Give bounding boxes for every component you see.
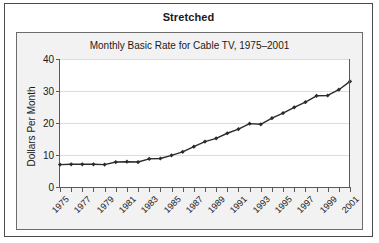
x-tick-label: 1993 bbox=[251, 194, 272, 215]
figure-caption: Stretched bbox=[5, 4, 372, 30]
y-axis-title: Dollars Per Month bbox=[26, 67, 37, 187]
series-polyline bbox=[60, 81, 350, 164]
x-tick-label: 1977 bbox=[72, 194, 93, 215]
data-point-marker bbox=[125, 160, 129, 164]
x-tick-mark bbox=[60, 187, 61, 192]
plot-right-edge bbox=[349, 59, 350, 188]
x-tick-mark bbox=[250, 187, 251, 192]
x-tick-label: 1997 bbox=[295, 194, 316, 215]
x-tick-mark bbox=[183, 187, 184, 192]
data-point-marker bbox=[80, 162, 84, 166]
x-tick-label: 1999 bbox=[318, 194, 339, 215]
data-series-line bbox=[60, 59, 350, 187]
data-point-marker bbox=[91, 162, 95, 166]
data-point-marker bbox=[169, 153, 173, 157]
data-point-marker bbox=[192, 145, 196, 149]
y-tick-label: 30 bbox=[43, 86, 54, 97]
x-tick-mark bbox=[116, 187, 117, 192]
figure-frame: Stretched Monthly Basic Rate for Cable T… bbox=[4, 3, 373, 237]
x-tick-label: 1985 bbox=[161, 194, 182, 215]
chart-panel: Monthly Basic Rate for Cable TV, 1975–20… bbox=[16, 32, 363, 230]
x-tick-mark bbox=[160, 187, 161, 192]
data-point-marker bbox=[114, 160, 118, 164]
x-tick-label: 1983 bbox=[139, 194, 160, 215]
x-tick-mark bbox=[350, 187, 351, 192]
x-tick-mark bbox=[283, 187, 284, 192]
x-tick-mark bbox=[82, 187, 83, 192]
x-tick-label: 1989 bbox=[206, 194, 227, 215]
x-tick-mark bbox=[138, 187, 139, 192]
x-tick-mark bbox=[238, 187, 239, 192]
x-tick-label: 1995 bbox=[273, 194, 294, 215]
x-tick-mark bbox=[294, 187, 295, 192]
plot-area: 403020100 197519771979198119831985198719… bbox=[59, 59, 350, 188]
x-tick-mark bbox=[305, 187, 306, 192]
x-tick-label: 1991 bbox=[228, 194, 249, 215]
data-point-marker bbox=[69, 162, 73, 166]
x-tick-label: 2001 bbox=[340, 194, 361, 215]
data-point-marker bbox=[214, 136, 218, 140]
data-point-marker bbox=[136, 160, 140, 164]
x-tick-mark bbox=[261, 187, 262, 192]
x-tick-mark bbox=[216, 187, 217, 192]
x-tick-mark bbox=[93, 187, 94, 192]
x-tick-mark bbox=[172, 187, 173, 192]
y-tick-label: 0 bbox=[48, 182, 54, 193]
data-point-marker bbox=[181, 150, 185, 154]
data-point-marker bbox=[225, 131, 229, 135]
x-tick-mark bbox=[105, 187, 106, 192]
x-tick-mark bbox=[272, 187, 273, 192]
x-tick-mark bbox=[127, 187, 128, 192]
y-tick-label: 10 bbox=[43, 150, 54, 161]
data-point-marker bbox=[58, 163, 62, 167]
data-point-marker bbox=[103, 163, 107, 167]
x-tick-mark bbox=[194, 187, 195, 192]
x-tick-mark bbox=[149, 187, 150, 192]
x-tick-mark bbox=[317, 187, 318, 192]
x-tick-mark bbox=[328, 187, 329, 192]
x-tick-mark bbox=[227, 187, 228, 192]
y-tick-label: 40 bbox=[43, 54, 54, 65]
x-tick-label: 1987 bbox=[184, 194, 205, 215]
x-tick-label: 1975 bbox=[50, 194, 71, 215]
data-point-marker bbox=[147, 157, 151, 161]
x-tick-label: 1981 bbox=[117, 194, 138, 215]
data-point-marker bbox=[158, 156, 162, 160]
x-tick-label: 1979 bbox=[94, 194, 115, 215]
x-tick-mark bbox=[71, 187, 72, 192]
series-markers bbox=[58, 79, 352, 166]
chart-title: Monthly Basic Rate for Cable TV, 1975–20… bbox=[17, 40, 362, 51]
data-point-marker bbox=[203, 139, 207, 143]
y-tick-label: 20 bbox=[43, 118, 54, 129]
x-tick-mark bbox=[205, 187, 206, 192]
x-tick-mark bbox=[339, 187, 340, 192]
